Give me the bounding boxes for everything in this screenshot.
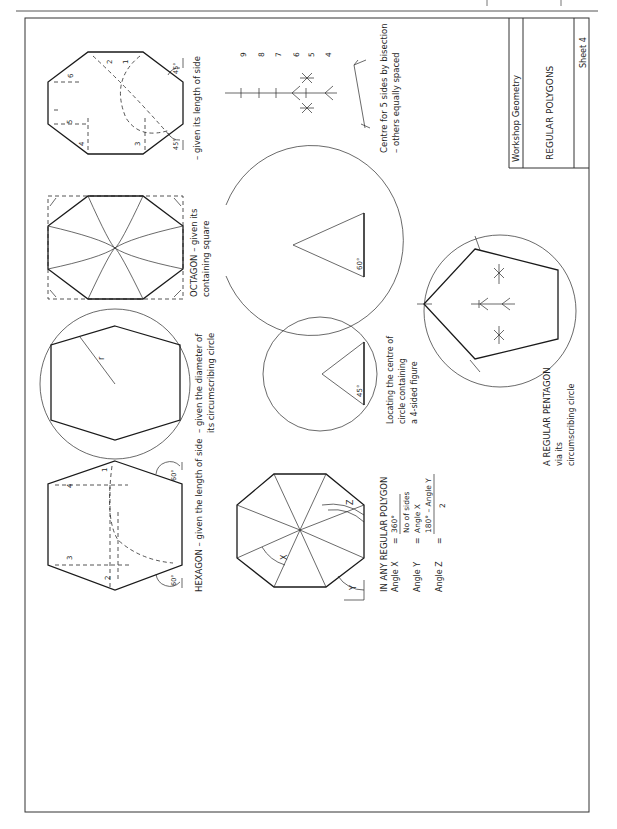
bisection-scale-figure: 9 8 7 6 5 4 Centre for 5 sides by bisect…: [225, 23, 401, 153]
svg-text:6: 6: [67, 73, 75, 78]
svg-text:1: 1: [122, 60, 130, 64]
svg-text:45°: 45°: [356, 385, 364, 397]
svg-text:OCTAGON – given its: OCTAGON – given its: [189, 208, 199, 297]
svg-text:6: 6: [292, 52, 301, 57]
octagon-side-caption: – given its length of side: [192, 56, 202, 160]
svg-text:– given the diameter of: – given the diameter of: [194, 333, 204, 433]
svg-text:X: X: [280, 554, 289, 560]
svg-text:Locating the centre of: Locating the centre of: [386, 336, 395, 424]
sheet-border: [25, 18, 589, 812]
svg-text:A REGULAR PENTAGON: A REGULAR PENTAGON: [542, 367, 552, 466]
svg-text:60°: 60°: [356, 258, 364, 270]
svg-text:5: 5: [66, 120, 74, 124]
svg-text:containing square: containing square: [201, 221, 211, 297]
circle-45-figure: 45° Locating the centre of circle contai…: [263, 317, 419, 431]
svg-text:– others equally spaced: – others equally spaced: [391, 52, 401, 153]
svg-text:7: 7: [274, 52, 283, 57]
octagon-square-figure: OCTAGON – given its containing square: [48, 196, 211, 299]
svg-text:45°: 45°: [172, 62, 180, 74]
svg-text:Y: Y: [349, 585, 358, 591]
page-header: [16, 0, 598, 11]
svg-text:8: 8: [257, 52, 266, 57]
title-subject: Workshop Geometry: [511, 75, 521, 162]
svg-text:2: 2: [438, 503, 447, 508]
regular-polygon-figure: X Z Y IN ANY REGULAR POLYGON Angle X = 3…: [237, 474, 447, 600]
svg-text:=: =: [413, 537, 422, 544]
svg-text:Angle Y: Angle Y: [413, 562, 422, 592]
svg-text:180° – Angle Y: 180° – Angle Y: [424, 478, 433, 533]
hexagon-side-caption: HEXAGON – given the length of side: [194, 439, 204, 592]
svg-text:60°: 60°: [170, 469, 178, 481]
svg-text:360°: 360°: [390, 515, 399, 533]
hexagon-circle-figure: r – given the diameter of its circumscri…: [40, 309, 216, 459]
title-sheet: Sheet 4: [579, 37, 588, 68]
circle-60-figure: 60°: [226, 146, 403, 336]
svg-text:IN ANY REGULAR POLYGON: IN ANY REGULAR POLYGON: [379, 477, 389, 592]
svg-text:Angle X: Angle X: [391, 561, 400, 592]
svg-text:circumscribing circle: circumscribing circle: [567, 384, 576, 466]
svg-text:4: 4: [324, 52, 333, 57]
svg-text:its circumscribing circle: its circumscribing circle: [206, 333, 216, 433]
pentagon-figure: A REGULAR PENTAGON via its circumscribin…: [417, 235, 576, 466]
svg-text:4: 4: [78, 141, 86, 146]
svg-text:9: 9: [239, 52, 248, 57]
svg-text:Z: Z: [346, 499, 355, 505]
title-block: Workshop Geometry REGULAR POLYGONS Sheet…: [509, 18, 589, 168]
hexagon-side-figure: 1 2 3 4 60° 60° HEXAGON – given the leng…: [48, 439, 204, 592]
svg-text:via its: via its: [555, 442, 564, 466]
svg-text:2: 2: [106, 60, 114, 64]
octagon-side-figure: 1 2 3 4 5 6 45° 45° – given its length o…: [48, 52, 202, 160]
svg-text:No of sides: No of sides: [402, 491, 411, 533]
svg-text:60°: 60°: [170, 574, 178, 586]
svg-text:3: 3: [134, 142, 142, 146]
svg-text:3: 3: [66, 556, 74, 560]
title-main: REGULAR POLYGONS: [545, 65, 555, 160]
svg-text:=: =: [435, 537, 444, 544]
svg-text:=: =: [391, 537, 400, 544]
svg-text:a 4-sided figure: a 4-sided figure: [410, 361, 419, 424]
svg-text:45°: 45°: [172, 138, 180, 150]
svg-text:circle containing: circle containing: [398, 358, 407, 424]
svg-text:r: r: [97, 356, 106, 360]
svg-text:1: 1: [101, 468, 109, 472]
svg-text:4: 4: [66, 483, 74, 488]
svg-text:2: 2: [104, 576, 112, 580]
svg-text:Angle X: Angle X: [413, 504, 422, 533]
svg-text:Angle Z: Angle Z: [435, 561, 444, 592]
drawing-sheet: Workshop Geometry REGULAR POLYGONS Sheet…: [0, 0, 617, 829]
svg-text:Centre for 5 sides by bisectio: Centre for 5 sides by bisection: [379, 23, 389, 153]
svg-text:5: 5: [307, 52, 316, 57]
